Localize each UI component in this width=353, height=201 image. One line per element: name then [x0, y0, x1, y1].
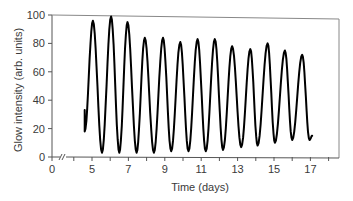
x-tick-label: 7	[125, 163, 131, 175]
y-tick-label: 100	[27, 9, 45, 21]
y-tick-label: 60	[33, 66, 45, 78]
x-tick-label: 17	[304, 163, 316, 175]
top-border	[52, 15, 339, 19]
x-tick-label: 5	[89, 163, 95, 175]
y-axis: 020406080100	[27, 9, 52, 163]
axis-break-mark	[62, 154, 65, 160]
y-tick-label: 40	[33, 94, 45, 106]
x-tick-label: 9	[162, 163, 168, 175]
x-tick-label: 15	[268, 163, 280, 175]
x-axis: 057911131517	[49, 157, 329, 175]
x-tick-label: 11	[195, 163, 206, 175]
y-tick-label: 0	[39, 151, 45, 163]
series-layer	[85, 16, 313, 152]
series-line-glow-intensity	[85, 16, 313, 152]
x-axis-title: Time (days)	[171, 181, 229, 193]
chart: 020406080100 057911131517 Glow intensity…	[0, 0, 353, 201]
x-axis-line	[66, 157, 339, 158]
y-tick-label: 80	[33, 37, 45, 49]
x-tick-label: 0	[49, 163, 55, 175]
x-tick-label: 13	[231, 163, 243, 175]
y-axis-title: Glow intensity (arb. units)	[12, 28, 24, 152]
y-tick-label: 20	[33, 123, 45, 135]
